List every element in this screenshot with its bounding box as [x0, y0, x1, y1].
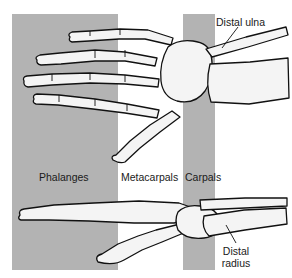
label-metacarpals: Metacarpals [121, 171, 178, 183]
hand-bone-diagram: Distal ulna Phalanges Metacarpals Carpal… [0, 0, 292, 278]
ulna-shaft [206, 27, 288, 57]
radius-shaft [208, 58, 289, 104]
label-distal-radius-line2: radius [218, 257, 254, 269]
index-finger-bones [33, 94, 159, 118]
lateral-thumb-bones [97, 224, 186, 264]
label-carpals: Carpals [185, 171, 221, 183]
middle-finger-bones [23, 73, 159, 87]
thumb-bones [112, 111, 180, 163]
lateral-finger-bones [19, 201, 196, 223]
carpal-bones [161, 41, 213, 102]
label-distal-radius: Distal radius [218, 245, 254, 269]
hand-skeleton-illustration [0, 0, 292, 278]
label-distal-radius-line1: Distal [218, 245, 254, 257]
little-finger-bones [69, 29, 173, 45]
ring-finger-bones [36, 50, 157, 66]
label-distal-ulna: Distal ulna [216, 16, 265, 28]
label-phalanges: Phalanges [39, 171, 89, 183]
